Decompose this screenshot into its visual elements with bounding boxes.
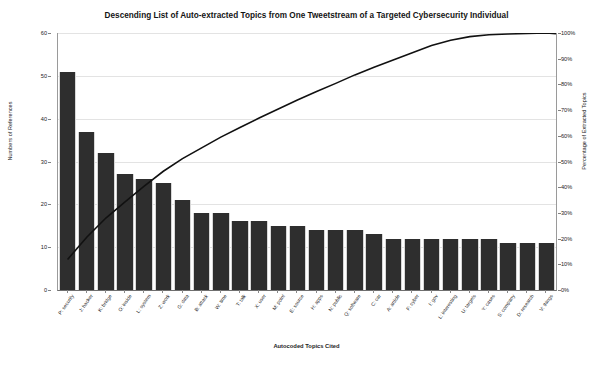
- y-tick-label-primary: 50: [41, 73, 47, 79]
- bar: [327, 230, 344, 290]
- bar-slot: [479, 33, 498, 290]
- y-tick-label-secondary: 40%: [561, 184, 572, 190]
- y-tick-mark-secondary: [558, 33, 561, 34]
- x-tick-label: B: attack: [193, 293, 209, 312]
- x-tick-label: U: targets: [460, 293, 477, 314]
- y-tick-label-primary: 10: [41, 244, 47, 250]
- y-tick-mark-secondary: [558, 187, 561, 188]
- y-tick-label-primary: 60: [41, 30, 47, 36]
- bar-slot: [154, 33, 173, 290]
- bar-slot: [269, 33, 288, 290]
- y-tick-label-secondary: 80%: [561, 81, 572, 87]
- y-tick-label-secondary: 60%: [561, 133, 572, 139]
- x-tick-label: H: apps: [309, 293, 324, 311]
- bar-slot: [250, 33, 269, 290]
- bar: [97, 153, 114, 290]
- bar-slot: [422, 33, 441, 290]
- y-tick-label-secondary: 0%: [561, 287, 569, 293]
- y-axis-ticks-primary: 0102030405060: [0, 33, 52, 290]
- y-tick-mark-secondary: [558, 59, 561, 60]
- y-axis-ticks-secondary: 0%10%20%30%40%50%60%70%80%90%100%: [558, 33, 610, 290]
- plot-area: [57, 33, 557, 291]
- y-tick-label-secondary: 20%: [561, 236, 572, 242]
- bar-slot: [441, 33, 460, 290]
- bar: [250, 221, 267, 290]
- y-tick-mark-secondary: [558, 136, 561, 137]
- x-tick-label: N: public: [327, 293, 343, 312]
- y-tick-mark-secondary: [558, 110, 561, 111]
- bar: [308, 230, 325, 290]
- y-tick-label-secondary: 100%: [561, 30, 575, 36]
- x-tick-label: O: inside: [116, 293, 132, 313]
- x-tick-label: C: car: [369, 293, 382, 307]
- y-tick-mark-secondary: [558, 290, 561, 291]
- y-tick-label-primary: 0: [44, 287, 47, 293]
- y-tick-mark-secondary: [558, 84, 561, 85]
- bar-slot: [460, 33, 479, 290]
- x-tick-label: V: things: [538, 293, 554, 312]
- x-tick-label: L: system: [134, 293, 151, 314]
- bar-slot: [96, 33, 115, 290]
- x-tick-label: I: gov: [427, 293, 439, 306]
- bar: [461, 239, 478, 290]
- y-tick-mark-secondary: [558, 162, 561, 163]
- x-tick-label: Q: software: [343, 293, 363, 317]
- x-tick-label: P: security: [57, 293, 75, 316]
- y-tick-label-primary: 20: [41, 201, 47, 207]
- bar: [480, 239, 497, 290]
- bar-slot: [115, 33, 134, 290]
- y-tick-mark-secondary: [558, 264, 561, 265]
- bar: [404, 239, 421, 290]
- y-tick-mark-primary: [48, 247, 51, 248]
- x-tick-label: L: interesting: [437, 293, 458, 320]
- x-tick-label: Z: work: [156, 293, 170, 310]
- bar: [78, 132, 95, 290]
- bar: [519, 243, 536, 290]
- pareto-chart: Descending List of Auto-extracted Topics…: [0, 0, 613, 367]
- bar-slot: [58, 33, 77, 290]
- bar-slot: [499, 33, 518, 290]
- bar-slot: [192, 33, 211, 290]
- x-tick-label: A: article: [385, 293, 401, 312]
- x-tick-label: Y: cases: [481, 293, 497, 312]
- x-tick-label: D: research: [515, 293, 535, 318]
- y-tick-label-secondary: 50%: [561, 159, 572, 165]
- y-tick-mark-primary: [48, 76, 51, 77]
- x-tick-label: W: time: [214, 293, 229, 310]
- x-tick-label: S: company: [495, 293, 515, 318]
- bar: [174, 200, 191, 290]
- y-tick-label-secondary: 90%: [561, 56, 572, 62]
- bar: [385, 239, 402, 290]
- bar-slot: [518, 33, 537, 290]
- bar-slot: [403, 33, 422, 290]
- y-tick-mark-primary: [48, 204, 51, 205]
- bar: [423, 239, 440, 290]
- y-tick-label-secondary: 30%: [561, 210, 572, 216]
- bar-slot: [211, 33, 230, 290]
- bar-slot: [307, 33, 326, 290]
- bar-slot: [135, 33, 154, 290]
- x-axis-labels: P: securityJ: hackerK: bridgeO: insideL:…: [57, 293, 555, 341]
- x-tick-label: G: data: [176, 293, 190, 310]
- bar: [538, 243, 555, 290]
- bar-slot: [326, 33, 345, 290]
- x-tick-label: F: cyber: [404, 293, 419, 311]
- bar-slot: [537, 33, 556, 290]
- bar: [270, 226, 287, 290]
- bar: [289, 226, 306, 290]
- bar: [346, 230, 363, 290]
- bar-series: [58, 33, 556, 290]
- x-tick-label: T: talk: [235, 293, 247, 307]
- y-tick-mark-secondary: [558, 213, 561, 214]
- bar-slot: [230, 33, 249, 290]
- bar: [59, 72, 76, 290]
- bar-slot: [77, 33, 96, 290]
- bar: [135, 179, 152, 290]
- y-tick-label-secondary: 10%: [561, 261, 572, 267]
- bar: [212, 213, 229, 290]
- y-tick-label-primary: 30: [41, 159, 47, 165]
- bar: [231, 221, 248, 290]
- y-tick-label-primary: 40: [41, 116, 47, 122]
- chart-title: Descending List of Auto-extracted Topics…: [0, 11, 613, 20]
- y-tick-mark-primary: [48, 162, 51, 163]
